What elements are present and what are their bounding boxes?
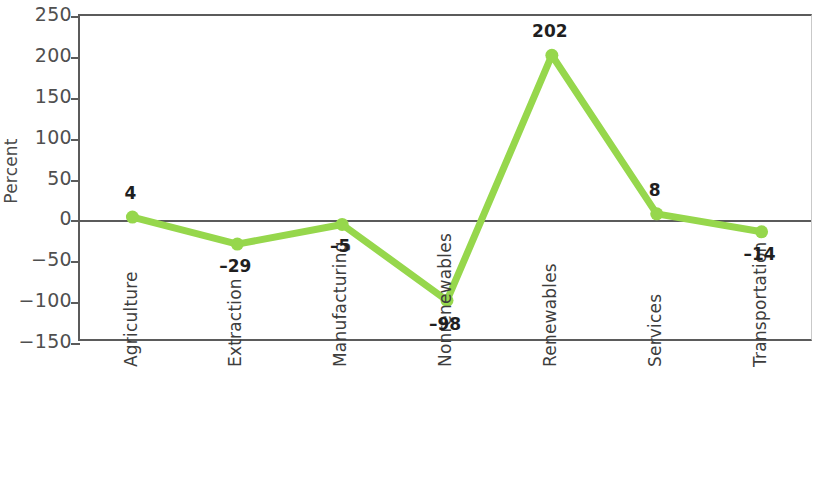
x-tick-label: Manufacturing (288, 345, 393, 494)
y-tick-label: 100 (2, 126, 72, 148)
y-tick-label: 50 (2, 167, 72, 189)
y-tick-label: 200 (2, 44, 72, 66)
x-tick-label-text: Manufacturing (330, 241, 350, 367)
x-tick-label: Transportation (707, 345, 812, 494)
y-tick-mark (71, 220, 80, 222)
x-tick-label: Agriculture (78, 345, 183, 494)
data-point-label: 4 (125, 183, 137, 203)
data-point-marker (650, 207, 663, 220)
y-tick-mark (71, 57, 80, 59)
x-tick-label: Extraction (183, 345, 288, 494)
y-tick-label: −100 (2, 289, 72, 311)
y-tick-label: 250 (2, 3, 72, 25)
y-tick-mark (71, 98, 80, 100)
y-axis-tick-labels: 250200150100500−50−100−150 (0, 0, 72, 494)
y-tick-mark (71, 180, 80, 182)
data-point-marker (126, 211, 139, 224)
y-tick-label: 0 (2, 207, 72, 229)
x-tick-label-text: Services (645, 294, 665, 367)
line-chart: Percent 250200150100500−50−100−150 Agric… (0, 0, 816, 494)
y-tick-mark (71, 302, 80, 304)
data-point-label: 8 (649, 180, 661, 200)
y-tick-mark (71, 261, 80, 263)
data-point-marker (336, 218, 349, 231)
y-tick-mark (71, 16, 80, 18)
y-tick-label: −150 (2, 330, 72, 352)
data-point-label: –98 (429, 314, 461, 334)
x-tick-label: Nonrenewables (393, 345, 498, 494)
x-axis-category-labels: AgricultureExtractionManufacturingNonren… (78, 345, 812, 494)
x-tick-label: Services (602, 345, 707, 494)
x-tick-label-text: Extraction (225, 278, 245, 367)
data-point-label: –14 (743, 244, 775, 264)
y-tick-label: −50 (2, 248, 72, 270)
x-tick-label-text: Agriculture (120, 271, 140, 367)
data-point-label: –5 (330, 236, 350, 256)
y-tick-mark (71, 139, 80, 141)
data-point-label: –29 (219, 256, 251, 276)
x-tick-label-text: Nonrenewables (435, 233, 455, 367)
data-point-marker (755, 225, 768, 238)
data-point-label: 202 (532, 21, 568, 41)
data-point-marker (545, 49, 558, 62)
data-point-marker (231, 238, 244, 251)
x-tick-label-text: Renewables (540, 263, 560, 367)
y-tick-label: 150 (2, 85, 72, 107)
x-tick-label: Renewables (497, 345, 602, 494)
